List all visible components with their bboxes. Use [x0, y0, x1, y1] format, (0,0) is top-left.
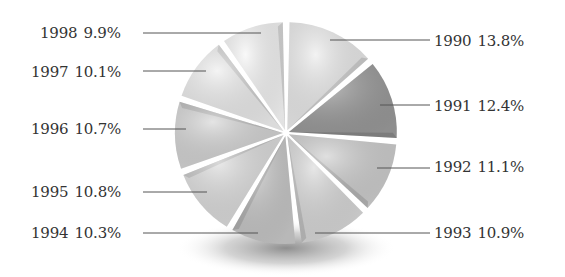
label-1997: 199710.1%: [31, 63, 121, 81]
label-1993: 199310.9%: [434, 224, 524, 242]
label-1992: 199211.1%: [434, 158, 524, 176]
pie-slices: [175, 22, 397, 244]
label-1991: 199112.4%: [434, 97, 524, 115]
label-1994: 199410.3%: [31, 224, 121, 242]
label-1995: 199510.8%: [31, 183, 121, 201]
label-1998: 19989.9%: [40, 24, 121, 42]
pie-chart: 19989.9% 199710.1% 199610.7% 199510.8% 1…: [0, 0, 565, 277]
label-1990: 199013.8%: [434, 32, 524, 50]
label-1996: 199610.7%: [31, 120, 121, 138]
